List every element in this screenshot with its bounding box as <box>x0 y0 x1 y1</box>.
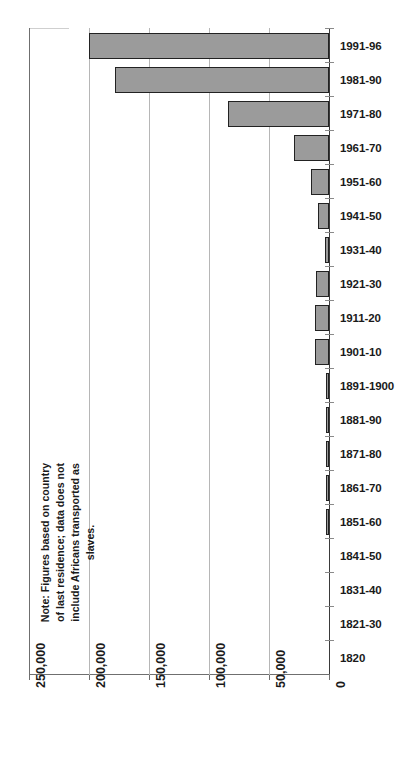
category-label-1991-96: 1991-96 <box>340 41 382 53</box>
plot-frame-top-stub <box>29 28 69 29</box>
ytick <box>325 640 334 641</box>
category-label-1941-50: 1941-50 <box>340 211 382 223</box>
chart-note-line-1: Note: Figures based on country <box>38 435 53 650</box>
category-label-1971-80: 1971-80 <box>340 109 382 121</box>
ytick <box>325 470 334 471</box>
bar-1871-80 <box>326 441 329 467</box>
immigration-bar-chart: 1991-96 1981-90 1971-80 1961-70 1951-60 … <box>0 0 414 759</box>
chart-note-line-4: slaves. <box>83 435 98 650</box>
ytick <box>325 28 334 29</box>
category-label-1861-70: 1861-70 <box>340 483 382 495</box>
ytick <box>325 436 334 437</box>
xtick-label-150000: 150,000 <box>155 643 168 688</box>
ytick <box>325 402 334 403</box>
ytick <box>325 368 334 369</box>
xtick-0 <box>329 675 330 680</box>
ytick <box>325 300 334 301</box>
xtick-label-0: 0 <box>335 681 348 688</box>
ytick <box>325 232 334 233</box>
category-label-1871-80: 1871-80 <box>340 449 382 461</box>
category-label-1931-40: 1931-40 <box>340 245 382 257</box>
chart-note-line-2: of last residence; data does not <box>53 435 68 650</box>
xtick-50000 <box>269 675 270 680</box>
chart-note: Note: Figures based on country of last r… <box>38 435 98 650</box>
bar-1991-96 <box>89 33 329 59</box>
ytick <box>325 572 334 573</box>
plot-frame-left <box>29 28 30 675</box>
bar-1851-60 <box>326 509 329 535</box>
bar-1931-40 <box>325 237 329 263</box>
category-label-1911-20: 1911-20 <box>340 313 381 325</box>
xtick-250000 <box>29 675 30 680</box>
category-label-1901-10: 1901-10 <box>340 347 382 359</box>
xtick-label-50000: 50,000 <box>275 650 288 688</box>
bar-1921-30 <box>316 271 329 297</box>
ytick <box>325 266 334 267</box>
category-label-1881-90: 1881-90 <box>340 415 382 427</box>
xtick-label-100000: 100,000 <box>215 643 228 688</box>
category-label-1951-60: 1951-60 <box>340 177 382 189</box>
category-label-1891-1900: 1891-1900 <box>340 381 394 393</box>
bar-1971-80 <box>228 101 329 127</box>
xtick-100000 <box>209 675 210 680</box>
category-label-1820: 1820 <box>340 653 365 665</box>
ytick <box>325 62 334 63</box>
xtick-200000 <box>89 675 90 680</box>
bar-1901-10 <box>315 339 329 365</box>
gridline-150000 <box>149 28 150 675</box>
category-label-1851-60: 1851-60 <box>340 517 382 529</box>
value-axis-baseline <box>329 28 330 675</box>
category-label-1821-30: 1821-30 <box>340 619 382 631</box>
bar-1861-70 <box>326 475 329 501</box>
ytick <box>325 164 334 165</box>
category-label-1921-30: 1921-30 <box>340 279 382 291</box>
bar-1981-90 <box>115 67 329 93</box>
bar-1891-1900 <box>326 373 329 399</box>
bar-1911-20 <box>315 305 329 331</box>
bar-1951-60 <box>311 169 329 195</box>
ytick <box>325 334 334 335</box>
ytick <box>325 198 334 199</box>
category-label-1981-90: 1981-90 <box>340 75 382 87</box>
chart-note-line-3: include Africans transported as <box>68 435 83 650</box>
ytick <box>325 96 334 97</box>
bar-1941-50 <box>318 203 329 229</box>
ytick <box>325 538 334 539</box>
ytick <box>325 130 334 131</box>
bar-1961-70 <box>294 135 329 161</box>
xtick-150000 <box>149 675 150 680</box>
category-label-1841-50: 1841-50 <box>340 551 382 563</box>
ytick <box>325 606 334 607</box>
category-label-1831-40: 1831-40 <box>340 585 382 597</box>
ytick <box>325 504 334 505</box>
bar-1881-90 <box>326 407 329 433</box>
category-label-1961-70: 1961-70 <box>340 143 382 155</box>
gridline-100000 <box>209 28 210 675</box>
